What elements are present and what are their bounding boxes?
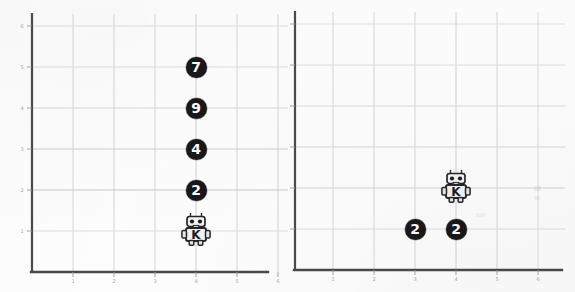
robot-icon[interactable]: K [181, 212, 211, 246]
x-tick-label: 6 [536, 276, 539, 282]
robot-badge-letter: K [451, 185, 461, 199]
y-tick-label: 1 [20, 228, 23, 234]
left-y-tick-labels: 1 2 3 4 5 6 [20, 23, 23, 234]
scan-artifact [476, 186, 541, 217]
x-tick-label: 1 [71, 278, 74, 284]
x-tick-label: 2 [112, 278, 115, 284]
left-coordinate-plot: 1 2 3 4 5 6 1 2 3 4 5 6 [0, 0, 290, 292]
number-token-icon[interactable]: 2 [186, 180, 207, 201]
left-grid-lines [32, 14, 288, 272]
right-plot-grid: 1 2 3 4 5 6 1 2 3 4 5 6 [290, 0, 575, 292]
right-coordinate-plot: 1 2 3 4 5 6 1 2 3 4 5 6 [290, 0, 575, 292]
worksheet-canvas: 1 2 3 4 5 6 1 2 3 4 5 6 [0, 0, 575, 292]
number-token-icon[interactable]: 2 [405, 219, 426, 240]
y-tick-label: 2 [20, 187, 23, 193]
right-grid-lines [295, 12, 565, 270]
x-tick-label: 2 [372, 276, 375, 282]
y-tick-label: 3 [20, 146, 23, 152]
number-token-icon[interactable]: 9 [186, 98, 207, 119]
x-tick-label: 3 [413, 276, 416, 282]
x-tick-label: 1 [331, 276, 334, 282]
y-tick-label: 5 [20, 64, 23, 70]
left-axes [31, 14, 268, 272]
left-plot-grid: 1 2 3 4 5 6 1 2 3 4 5 6 [0, 0, 290, 292]
x-tick-label: 4 [454, 276, 457, 282]
number-token-icon[interactable]: 2 [446, 219, 467, 240]
robot-badge-letter: K [191, 228, 201, 242]
x-tick-label: 5 [235, 278, 238, 284]
robot-icon[interactable]: K [441, 169, 471, 203]
x-tick-label: 6 [276, 278, 279, 284]
number-token-icon[interactable]: 7 [186, 57, 207, 78]
left-x-tick-labels: 1 2 3 4 5 6 [71, 278, 279, 284]
robot-icon-glyph: K [181, 212, 211, 246]
robot-icon-glyph: K [441, 169, 471, 203]
left-axis-ticks [27, 26, 278, 277]
x-tick-label: 4 [194, 278, 197, 284]
x-tick-label: 5 [495, 276, 498, 282]
number-token-icon[interactable]: 4 [186, 139, 207, 160]
right-x-tick-labels: 1 2 3 4 5 6 [331, 276, 539, 282]
y-tick-label: 6 [20, 23, 23, 29]
right-axes [294, 12, 562, 270]
y-tick-label: 4 [20, 105, 23, 111]
x-tick-label: 3 [153, 278, 156, 284]
